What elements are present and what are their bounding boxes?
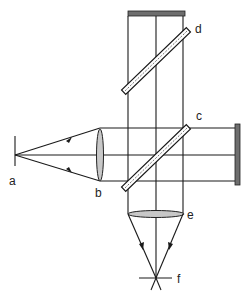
vertical-beams (128, 16, 183, 278)
label-c: c (196, 109, 202, 123)
label-f: f (177, 272, 181, 286)
label-e: e (187, 208, 194, 222)
lens-e (128, 211, 184, 218)
optical-diagram: a b c d e f (0, 0, 250, 298)
label-d: d (195, 22, 202, 36)
lens-b (97, 129, 104, 181)
label-a: a (9, 174, 16, 188)
arrow-icon (66, 167, 72, 173)
top-mirror (128, 11, 185, 16)
label-b: b (95, 186, 102, 200)
right-mirror (235, 124, 240, 185)
horizontal-beams (15, 128, 235, 181)
